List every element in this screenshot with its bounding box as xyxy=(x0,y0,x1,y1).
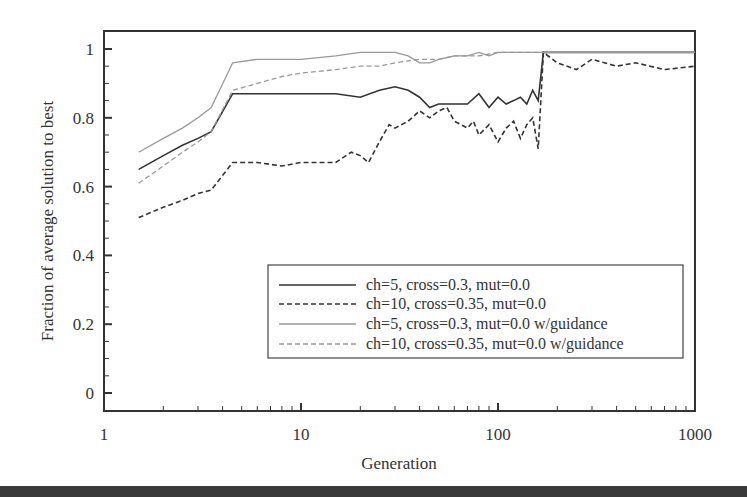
legend-label: ch=10, cross=0.35, mut=0.0 w/guidance xyxy=(366,335,624,353)
bottom-border-band xyxy=(0,486,747,497)
y-tick-label: 1 xyxy=(86,40,95,59)
legend-label: ch=10, cross=0.35, mut=0.0 xyxy=(366,295,546,312)
x-tick-label: 10 xyxy=(293,425,310,444)
y-tick-label: 0.4 xyxy=(73,246,95,265)
legend-label: ch=5, cross=0.3, mut=0.0 w/guidance xyxy=(366,315,608,333)
y-tick-label: 0 xyxy=(86,384,95,403)
x-tick-label: 100 xyxy=(485,425,511,444)
y-axis-label: Fraction of average solution to best xyxy=(38,101,57,342)
legend-label: ch=5, cross=0.3, mut=0.0 xyxy=(366,276,530,293)
legend: ch=5, cross=0.3, mut=0.0ch=10, cross=0.3… xyxy=(268,265,683,358)
line-chart: 00.20.40.60.81 1101001000 Generation Fra… xyxy=(0,0,747,497)
y-tick-label: 0.6 xyxy=(73,178,94,197)
x-axis-label: Generation xyxy=(361,454,437,473)
y-tick-label: 0.2 xyxy=(73,315,94,334)
x-tick-label: 1000 xyxy=(678,425,712,444)
x-tick-label: 1 xyxy=(100,425,109,444)
y-tick-label: 0.8 xyxy=(73,109,94,128)
